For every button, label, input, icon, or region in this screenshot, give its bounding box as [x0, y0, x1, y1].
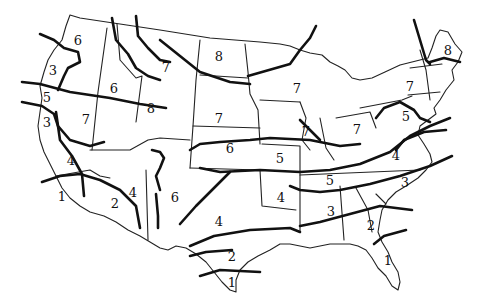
zone-label: 5 [276, 152, 284, 165]
zone-label: 8 [147, 102, 155, 115]
zone-label: 6 [74, 34, 82, 47]
zone-label: 3 [401, 176, 409, 189]
zone-label: 3 [49, 64, 57, 77]
zone-label: 8 [215, 50, 223, 63]
zone-label: 7 [293, 82, 301, 95]
zone-label: 6 [226, 142, 234, 155]
zone-label: 5 [43, 91, 51, 104]
zone-label: 2 [367, 219, 375, 232]
zone-label: 2 [111, 197, 119, 210]
zone-label: 7 [302, 125, 310, 138]
zone-label: 7 [406, 80, 414, 93]
zone-label: 1 [384, 254, 392, 267]
zone-label: 6 [171, 191, 179, 204]
zone-label: 8 [444, 44, 452, 57]
zone-label: 3 [43, 116, 51, 129]
zone-label: 5 [402, 110, 410, 123]
zone-label: 2 [228, 250, 236, 263]
zone-label: 7 [162, 61, 170, 74]
zone-label: 4 [129, 186, 137, 199]
zone-label: 6 [110, 82, 118, 95]
zone-label: 4 [215, 215, 223, 228]
zone-label: 7 [353, 123, 361, 136]
zone-label: 7 [82, 113, 90, 126]
zone-label: 4 [277, 191, 285, 204]
zone-label: 3 [327, 205, 335, 218]
zone-label: 1 [58, 190, 66, 203]
zone-label: 1 [228, 276, 236, 289]
zone-label: 4 [67, 154, 75, 167]
zone-label: 5 [326, 174, 334, 187]
zone-label: 4 [392, 149, 400, 162]
us-zone-map: 6 3 5 3 6 7 8 8 7 7 7 7 7 7 8 5 4 6 5 5 … [0, 0, 498, 306]
zone-label: 7 [215, 112, 223, 125]
